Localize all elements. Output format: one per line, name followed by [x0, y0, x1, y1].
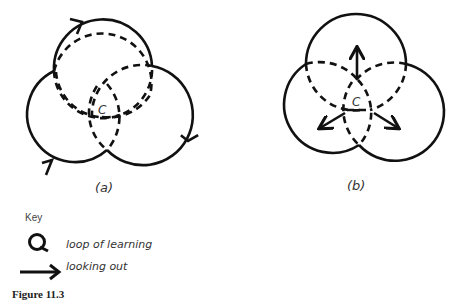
- panel-a: [27, 19, 199, 175]
- loop-icon: [30, 235, 49, 252]
- arrow-down-left: [320, 113, 345, 128]
- left-circle-outer-arc: [284, 64, 359, 153]
- arrow-right-icon: [20, 265, 59, 279]
- panel-a-center-label: C: [98, 103, 107, 117]
- arrow-down-right: [374, 113, 398, 128]
- key-title: Key: [25, 212, 42, 223]
- panel-b-label: (b): [347, 178, 365, 193]
- panel-a-label: (a): [95, 180, 113, 195]
- panel-b: [284, 14, 444, 161]
- dashed-overlap-arcs: [54, 34, 152, 150]
- diagram-canvas: C (a) C (b) loop of learning looking out: [0, 0, 468, 304]
- key-item-looking-label: looking out: [66, 260, 128, 273]
- right-circle-outer-arc: [359, 64, 444, 161]
- key-item-loop-label: loop of learning: [66, 238, 152, 251]
- arrow-head-left: [42, 160, 52, 175]
- panel-b-center-label: C: [352, 95, 361, 109]
- figure-caption: Figure 11.3: [12, 288, 64, 300]
